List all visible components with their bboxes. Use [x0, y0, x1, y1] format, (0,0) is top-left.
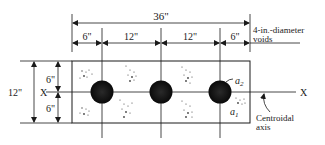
- centroidal-label-line2: axis: [256, 122, 271, 132]
- axis-label-left: X: [40, 87, 48, 98]
- void-right: [209, 81, 232, 104]
- axis-label-right: X: [300, 87, 308, 98]
- upper-height-label: 6": [46, 74, 55, 85]
- hollow-slab-cross-section-diagram: 36" 6" 12" 12" 6" 4-in.-diameter voids 1…: [0, 0, 325, 145]
- centroidal-axis-leader: [264, 94, 270, 112]
- void-label-line2: voids: [253, 34, 273, 44]
- segment-label-3: 12": [183, 31, 197, 42]
- void-left: [91, 81, 114, 104]
- total-height-label: 12": [8, 87, 22, 98]
- a2-leader-line: [226, 79, 233, 82]
- area-label-a2: a2: [235, 75, 244, 88]
- area-label-a1: a1: [230, 106, 239, 119]
- void-center: [150, 81, 173, 104]
- segment-label-1: 6": [82, 31, 91, 42]
- segment-label-4: 6": [230, 31, 239, 42]
- lower-height-label: 6": [46, 103, 55, 114]
- segment-label-2: 12": [124, 31, 138, 42]
- overall-width-label: 36": [153, 10, 169, 22]
